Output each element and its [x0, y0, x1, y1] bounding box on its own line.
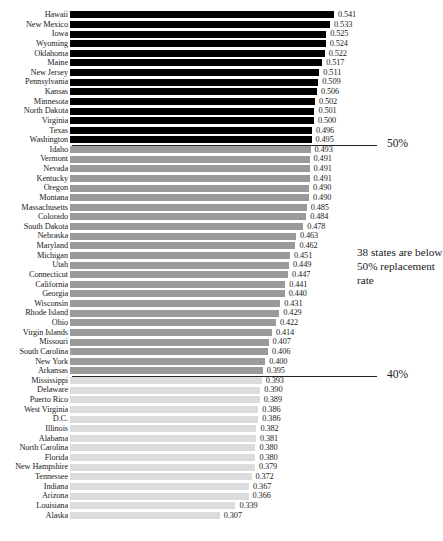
value-label: 0.511: [323, 68, 341, 78]
bar-row: North Carolina0.380: [0, 443, 424, 453]
value-label: 0.524: [330, 39, 348, 49]
category-label: Oregon: [0, 183, 70, 193]
bar: [70, 454, 255, 461]
bar-row: West Virginia0.386: [0, 405, 424, 415]
bar-row: New Mexico0.533: [0, 20, 424, 30]
bar-track: 0.389: [70, 395, 424, 405]
value-label: 0.496: [316, 126, 334, 136]
bar-track: 0.509: [70, 77, 424, 87]
bar-track: 0.495: [70, 135, 424, 145]
bar-track: 0.490: [70, 193, 424, 203]
bar-track: 0.511: [70, 68, 424, 78]
category-label: Idaho: [0, 145, 70, 155]
category-label: Illinois: [0, 424, 70, 434]
value-label: 0.400: [269, 357, 287, 367]
value-label: 0.339: [239, 501, 257, 511]
category-label: Vermont: [0, 154, 70, 164]
bar-row: Washington0.495: [0, 135, 424, 145]
bar-row: Massachusetts0.485: [0, 203, 424, 213]
value-label: 0.522: [329, 49, 347, 59]
value-label: 0.533: [334, 20, 352, 30]
value-label: 0.463: [300, 231, 318, 241]
bar: [70, 98, 315, 105]
bar-row: Rhode Island0.429: [0, 308, 424, 318]
value-label: 0.495: [316, 135, 334, 145]
bar: [70, 185, 309, 192]
bar-track: 0.491: [70, 164, 424, 174]
bar: [70, 502, 235, 509]
bar-row: Illinois0.382: [0, 424, 424, 434]
category-label: Oklahoma: [0, 49, 70, 59]
bar-row: Idaho0.493: [0, 145, 424, 155]
value-label: 0.380: [259, 453, 277, 463]
bar-track: 0.522: [70, 49, 424, 59]
bar-track: 0.525: [70, 29, 424, 39]
bar-track: 0.541: [70, 10, 424, 20]
bar-track: 0.501: [70, 106, 424, 116]
bar: [70, 473, 252, 480]
value-label: 0.491: [314, 174, 332, 184]
category-label: Louisiana: [0, 501, 70, 511]
bar-row: Arkansas0.395: [0, 366, 424, 376]
bar: [70, 213, 306, 220]
bar-track: 0.422: [70, 318, 424, 328]
bar: [70, 252, 290, 259]
bar: [70, 59, 322, 66]
bar-row: Puerto Rico0.389: [0, 395, 424, 405]
bar: [70, 271, 288, 278]
bar-row: Maine0.517: [0, 58, 424, 68]
value-label: 0.501: [318, 106, 336, 116]
bar-row: Iowa0.525: [0, 29, 424, 39]
value-label: 0.506: [321, 87, 339, 97]
bar-track: 0.491: [70, 154, 424, 164]
value-label: 0.395: [267, 366, 285, 376]
bar-track: 0.406: [70, 347, 424, 357]
category-label: Wisconsin: [0, 299, 70, 309]
bar: [70, 416, 258, 423]
bar: [70, 165, 310, 172]
category-label: New Hampshire: [0, 462, 70, 472]
category-label: Michigan: [0, 251, 70, 261]
bar-track: 0.380: [70, 443, 424, 453]
bar-row: D.C.0.386: [0, 414, 424, 424]
value-label: 0.390: [264, 385, 282, 395]
bar-track: 0.366: [70, 491, 424, 501]
bar-track: 0.339: [70, 501, 424, 511]
bar-row: Wisconsin0.431: [0, 299, 424, 309]
bar: [70, 483, 249, 490]
bar-row: Nebraska0.463: [0, 231, 424, 241]
bar-row: New Hampshire0.379: [0, 462, 424, 472]
category-label: North Carolina: [0, 443, 70, 453]
value-label: 0.440: [289, 289, 307, 299]
bar-row: Tennessee0.372: [0, 472, 424, 482]
value-label: 0.431: [284, 299, 302, 309]
bar-row: Louisiana0.339: [0, 501, 424, 511]
bar: [70, 377, 262, 384]
value-label: 0.491: [314, 164, 332, 174]
bar-track: 0.407: [70, 337, 424, 347]
category-label: Pennsylvania: [0, 77, 70, 87]
category-label: North Dakota: [0, 106, 70, 116]
bar-row: Arizona0.366: [0, 491, 424, 501]
category-label: New Mexico: [0, 20, 70, 30]
bar-track: 0.381: [70, 434, 424, 444]
category-label: Wyoming: [0, 39, 70, 49]
bar-track: 0.478: [70, 222, 424, 232]
bar: [70, 88, 317, 95]
bar-row: New York0.400: [0, 357, 424, 367]
bar: [70, 79, 318, 86]
bar: [70, 387, 260, 394]
bar: [70, 319, 276, 326]
value-label: 0.462: [299, 241, 317, 251]
bar-row: South Carolina0.406: [0, 347, 424, 357]
value-label: 0.367: [253, 482, 271, 492]
bar: [70, 444, 255, 451]
category-label: Utah: [0, 260, 70, 270]
bar: [70, 156, 310, 163]
bar-row: Delaware0.390: [0, 385, 424, 395]
category-label: Arkansas: [0, 366, 70, 376]
value-label: 0.493: [315, 145, 333, 155]
bar-row: Indiana0.367: [0, 482, 424, 492]
value-label: 0.381: [260, 434, 278, 444]
